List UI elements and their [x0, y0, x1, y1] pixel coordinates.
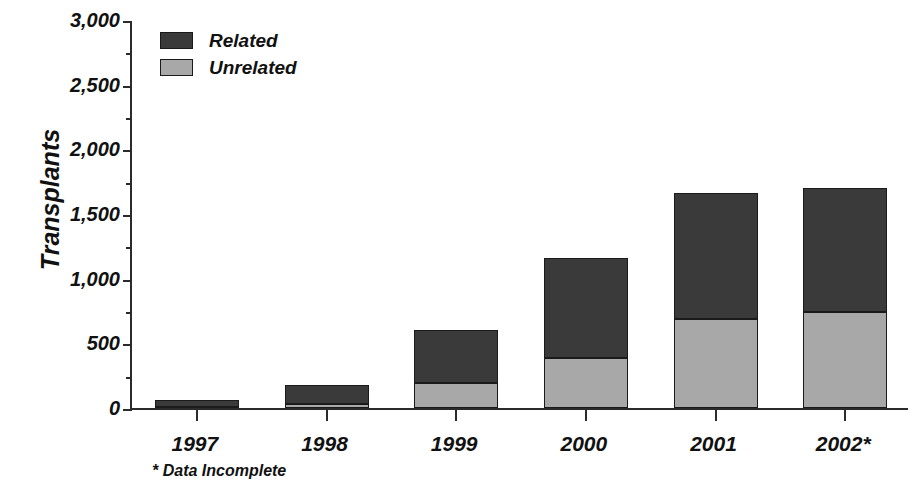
bar-2001: [674, 193, 758, 408]
y-axis-minor-tick: [126, 247, 132, 249]
y-axis-minor-tick: [126, 377, 132, 379]
y-axis-tick-label: 1,000: [20, 268, 120, 291]
y-axis-major-tick: [123, 215, 132, 217]
y-axis-minor-tick: [126, 312, 132, 314]
bar-1999: [414, 330, 498, 408]
bar-segment-related: [155, 400, 239, 406]
y-axis-minor-tick: [126, 53, 132, 55]
footnote-data-incomplete: * Data Incomplete: [152, 462, 286, 480]
y-axis-tick-label: 3,000: [20, 9, 120, 32]
x-axis-tick: [196, 410, 198, 421]
bar-segment-related: [544, 258, 628, 358]
legend-swatch-related: [160, 32, 193, 49]
y-axis-tick-label: 1,500: [20, 203, 120, 226]
x-axis-tick-label: 1997: [135, 432, 255, 456]
bar-1998: [285, 385, 369, 408]
bar-segment-unrelated: [285, 404, 369, 408]
y-axis-major-tick: [123, 21, 132, 23]
x-axis-tick-label: 2000: [524, 432, 644, 456]
bar-segment-related: [803, 188, 887, 312]
legend-item-related: Related: [160, 27, 297, 54]
y-axis-major-tick: [123, 86, 132, 88]
y-axis-major-tick: [123, 344, 132, 346]
legend-swatch-unrelated: [160, 59, 193, 76]
bar-segment-unrelated: [674, 319, 758, 408]
x-axis-tick: [455, 410, 457, 421]
x-axis-tick: [715, 410, 717, 421]
y-axis-major-tick: [123, 409, 132, 411]
legend-label: Related: [209, 30, 278, 52]
bar-2002: [803, 188, 887, 408]
bar-segment-unrelated: [414, 383, 498, 408]
bar-segment-related: [285, 385, 369, 404]
x-axis-tick-label: 1999: [394, 432, 514, 456]
bar-segment-unrelated: [803, 312, 887, 408]
y-axis-tick-label: 0: [20, 397, 120, 420]
bar-2000: [544, 258, 628, 408]
bar-segment-related: [674, 193, 758, 319]
bar-1997: [155, 400, 239, 408]
x-axis-tick-label: 1998: [265, 432, 385, 456]
y-axis-tick-label: 2,500: [20, 74, 120, 97]
y-axis-minor-tick: [126, 118, 132, 120]
y-axis-minor-tick: [126, 183, 132, 185]
y-axis-major-tick: [123, 150, 132, 152]
x-axis-tick: [585, 410, 587, 421]
legend-item-unrelated: Unrelated: [160, 54, 297, 81]
legend-label: Unrelated: [209, 57, 297, 79]
x-axis-tick-label: 2001: [654, 432, 774, 456]
stacked-bar-chart: Transplants 05001,0001,5002,0002,5003,00…: [0, 0, 915, 487]
y-axis-major-tick: [123, 280, 132, 282]
y-axis-tick-label: 500: [20, 332, 120, 355]
x-axis-tick: [326, 410, 328, 421]
x-axis-tick-label: 2002*: [783, 432, 903, 456]
y-axis-tick-label: 2,000: [20, 138, 120, 161]
x-axis-tick: [844, 410, 846, 421]
chart-legend: RelatedUnrelated: [160, 27, 297, 81]
bar-segment-unrelated: [544, 358, 628, 408]
bar-segment-related: [414, 330, 498, 383]
y-axis-tick-labels: 05001,0001,5002,0002,5003,000: [18, 0, 120, 487]
